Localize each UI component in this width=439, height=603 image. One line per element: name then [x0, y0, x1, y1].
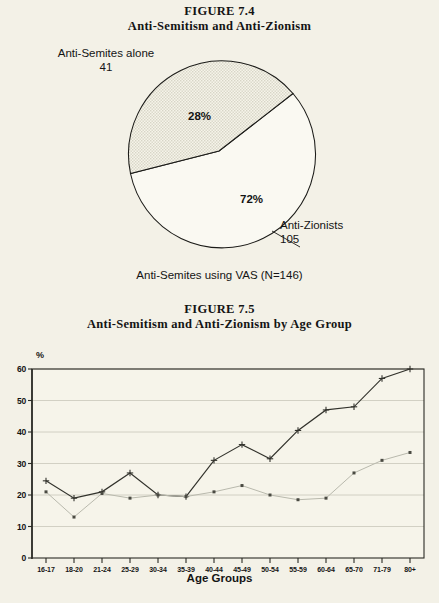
- y-axis-tick-labels: 0102030405060: [0, 344, 26, 603]
- data-point-anti-zionism-40-44: [213, 490, 216, 493]
- data-point-anti-zionism-60-64: [325, 497, 328, 500]
- pie-value-anti-zionists: 105: [280, 232, 400, 246]
- x-axis-title: Age Groups: [0, 572, 439, 584]
- y-axis-unit-label: %: [36, 350, 44, 360]
- pie-label-anti-semites-alone: Anti-Semites alone: [36, 46, 176, 60]
- y-axis-label-50: 50: [0, 396, 26, 406]
- pie-label-anti-zionists: Anti-Zionists: [280, 218, 400, 232]
- pie-pct-72-text: 72%: [240, 193, 263, 205]
- figure-75-subtitle: Anti-Semitism and Anti-Zionism by Age Gr…: [0, 317, 439, 332]
- y-axis-label-0: 0: [0, 553, 26, 563]
- data-point-anti-zionism-25-29: [129, 497, 132, 500]
- pie-value-anti-semites-alone: 41: [36, 60, 176, 74]
- data-point-anti-zionism-35-39: [185, 495, 188, 498]
- data-point-anti-zionism-55-59: [297, 498, 300, 501]
- figure-75-title: FIGURE 7.5: [0, 302, 439, 317]
- data-point-anti-zionism-50-54: [269, 494, 272, 497]
- data-point-anti-zionism-71-79: [381, 459, 384, 462]
- data-point-anti-zionism-16-17: [45, 490, 48, 493]
- line-chart-svg: [0, 344, 439, 603]
- figure-74-subtitle: Anti-Semitism and Anti-Zionism: [0, 19, 439, 34]
- data-point-anti-zionism-21-24: [101, 492, 104, 495]
- line-chart-figure-75: % 0102030405060 16-1718-2021-2425-2930-3…: [0, 344, 439, 603]
- data-point-anti-zionism-65-70: [353, 471, 356, 474]
- y-axis-label-40: 40: [0, 427, 26, 437]
- y-axis-label-30: 30: [0, 459, 26, 469]
- pie-chart-figure-74: 28% 72% Anti-Semites alone 41 Anti-Zioni…: [0, 38, 439, 263]
- y-axis-label-10: 10: [0, 522, 26, 532]
- data-point-anti-zionism-45-49: [241, 484, 244, 487]
- pie-pct-28-text: 28%: [188, 110, 211, 122]
- data-point-anti-zionism-80+: [409, 451, 412, 454]
- data-point-anti-zionism-30-34: [157, 494, 160, 497]
- y-axis-label-20: 20: [0, 490, 26, 500]
- figure-74-caption: Anti-Semites using VAS (N=146): [0, 269, 439, 281]
- y-axis-label-60: 60: [0, 364, 26, 374]
- figure-74-title: FIGURE 7.4: [0, 4, 439, 19]
- data-point-anti-zionism-18-20: [73, 516, 76, 519]
